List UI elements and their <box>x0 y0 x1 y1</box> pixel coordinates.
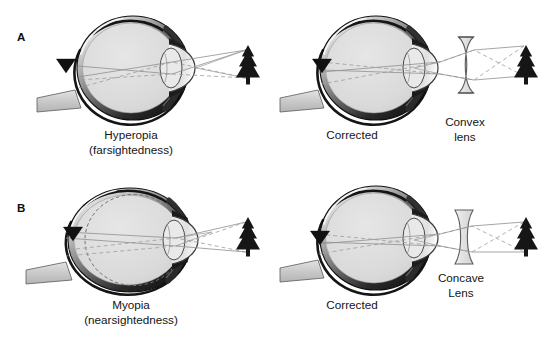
caption-hyperopia-line1: Hyperopia <box>104 128 157 141</box>
panel-letter-a: A <box>17 31 26 43</box>
caption-corrected-b: Corrected <box>282 298 422 313</box>
caption-myopia-line2: (nearsightedness) <box>0 313 262 328</box>
caption-convex-line2: lens <box>410 130 520 145</box>
caption-concave-line1: Concave <box>438 271 484 284</box>
panel-letter-b: B <box>17 202 26 214</box>
caption-corrected-b-label: Corrected <box>326 298 377 311</box>
caption-hyperopia-line2: (farsightedness) <box>0 143 262 158</box>
caption-myopia-line1: Myopia <box>112 298 150 311</box>
caption-concave-line2: Lens <box>406 286 516 301</box>
caption-convex-line1: Convex <box>445 115 485 128</box>
caption-corrected-a-label: Corrected <box>326 128 377 141</box>
caption-hyperopia: Hyperopia (farsightedness) <box>0 128 262 157</box>
caption-myopia: Myopia (nearsightedness) <box>0 298 262 327</box>
caption-concave-lens: Concave Lens <box>406 271 516 300</box>
caption-convex-lens: Convex lens <box>410 115 520 144</box>
caption-corrected-a: Corrected <box>282 128 422 143</box>
